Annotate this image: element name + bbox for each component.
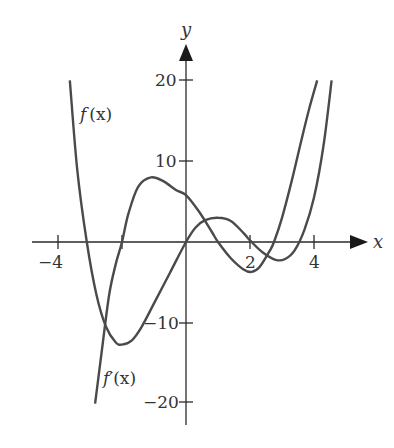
label-f-prime-name: f′ [101, 368, 113, 388]
y-tick-label-10: 10 [155, 151, 177, 171]
y-axis-arrow-icon [179, 44, 193, 61]
function-derivative-chart: x y −4 2 4 20 10 −10 −20 f(x) f′(x) [0, 0, 394, 448]
x-tick-label-neg4: −4 [38, 252, 63, 272]
x-axis-arrow-icon [350, 235, 368, 249]
x-tick-label-4: 4 [309, 252, 320, 272]
y-tick-label-neg20: −20 [143, 392, 179, 412]
label-f-arg: (x) [89, 104, 112, 124]
label-f-prime: f′(x) [101, 368, 136, 388]
label-f: f(x) [78, 104, 112, 124]
y-tick-label-20: 20 [155, 70, 177, 90]
label-f-name: f [78, 104, 89, 124]
x-tick-label-2: 2 [245, 252, 256, 272]
x-axis-label: x [373, 231, 383, 252]
label-f-prime-arg: (x) [113, 368, 136, 388]
y-axis-label: y [180, 19, 192, 40]
